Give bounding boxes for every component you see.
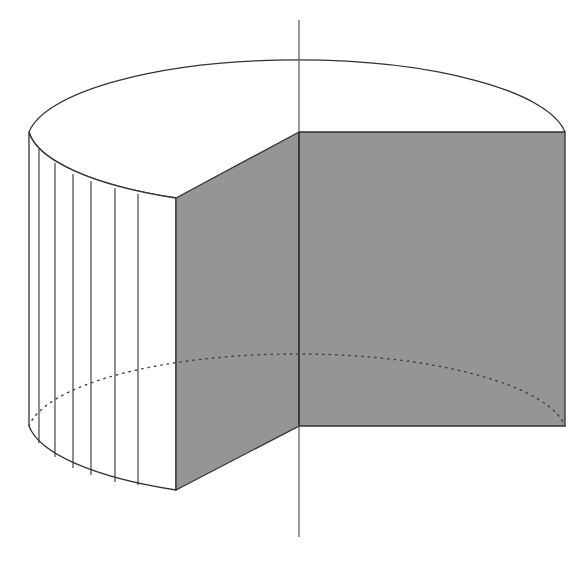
- cut-face-right: [299, 132, 565, 426]
- diagram-canvas: [0, 0, 587, 562]
- cylinder-sector-diagram: [0, 0, 587, 562]
